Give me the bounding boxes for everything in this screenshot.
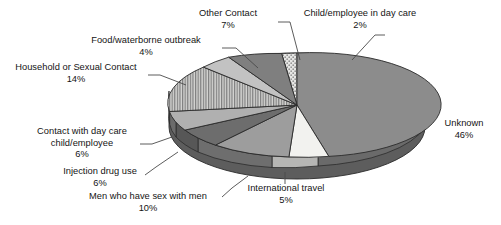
- label-child-day-care-name: Child/employee in day care: [304, 8, 417, 18]
- label-msm-pct: 10%: [74, 203, 222, 215]
- label-food-waterborne-name: Food/waterborne outbreak: [91, 35, 201, 45]
- label-household-sexual-name: Household or Sexual Contact: [15, 62, 136, 72]
- leader-injection-drug: [145, 152, 178, 175]
- label-food-waterborne-pct: 4%: [72, 47, 220, 59]
- label-msm-name: Men who have sex with men: [89, 191, 207, 201]
- label-international-travel-pct: 5%: [238, 195, 334, 207]
- label-injection-drug-pct: 6%: [56, 178, 144, 190]
- label-contact-day-care-name2: child/employee: [26, 138, 138, 150]
- label-injection-drug-name: Injection drug use: [63, 166, 137, 176]
- label-injection-drug-use: Injection drug use 6%: [56, 166, 144, 189]
- label-international-travel-name: International travel: [248, 183, 325, 193]
- label-unknown-pct: 46%: [435, 130, 493, 142]
- label-child-day-care-pct: 2%: [282, 20, 438, 32]
- label-other-contact-name: Other Contact: [199, 8, 257, 18]
- pie-top-face: [168, 53, 441, 158]
- label-contact-day-care-pct: 6%: [26, 149, 138, 161]
- label-food-waterborne-outbreak: Food/waterborne outbreak 4%: [72, 35, 220, 58]
- label-msm: Men who have sex with men 10%: [74, 191, 222, 214]
- pie-chart-figure: Other Contact 7% Child/employee in day c…: [0, 0, 501, 225]
- label-international-travel: International travel 5%: [238, 183, 334, 206]
- label-other-contact: Other Contact 7%: [176, 8, 280, 31]
- label-other-contact-pct: 7%: [176, 20, 280, 32]
- label-contact-day-care-name: Contact with day care: [37, 126, 127, 136]
- label-household-sexual-contact: Household or Sexual Contact 14%: [6, 62, 146, 85]
- label-household-sexual-pct: 14%: [6, 74, 146, 86]
- label-contact-day-care: Contact with day care child/employee 6%: [26, 126, 138, 161]
- label-unknown: Unknown 46%: [435, 118, 493, 141]
- label-unknown-name: Unknown: [445, 118, 484, 128]
- leader-contact-day-care: [140, 137, 172, 144]
- label-child-day-care: Child/employee in day care 2%: [282, 8, 438, 31]
